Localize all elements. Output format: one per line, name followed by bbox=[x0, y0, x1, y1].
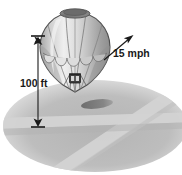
balloon-crown bbox=[60, 9, 90, 18]
altitude-label: 100 ft bbox=[20, 77, 48, 89]
basket-panel-left bbox=[71, 76, 74, 81]
figure-canvas: 100 ft 15 mph bbox=[0, 0, 182, 175]
wind-label: 15 mph bbox=[113, 47, 150, 59]
balloon-diagram-svg: 100 ft 15 mph bbox=[0, 0, 182, 175]
wind-annotation: 15 mph bbox=[104, 35, 150, 60]
balloon-basket bbox=[69, 74, 81, 83]
basket-panel-right bbox=[76, 76, 79, 81]
ground-field bbox=[0, 78, 182, 175]
crown-vent bbox=[64, 9, 87, 15]
